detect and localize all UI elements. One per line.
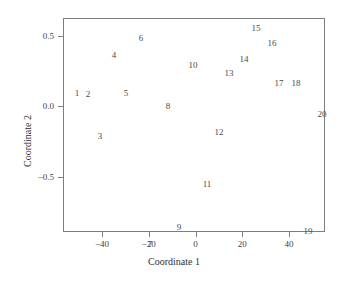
x-axis-tick: [149, 232, 150, 237]
data-point-label: 3: [98, 131, 103, 140]
plot-data-area: 1234567891011121314151617182019: [63, 18, 325, 232]
data-point-label: 14: [239, 54, 248, 63]
x-axis-tick-label: 20: [238, 239, 247, 249]
x-axis-tick: [242, 232, 243, 237]
x-axis-tick: [102, 232, 103, 237]
data-point-label: 2: [86, 90, 91, 99]
x-axis-label: Coordinate 1: [0, 256, 348, 267]
y-axis-label: Coordinate 2: [22, 115, 33, 167]
x-axis-tick-label: 40: [285, 239, 294, 249]
scatter-plot-figure: 1234567891011121314151617182019 −40−2002…: [0, 0, 348, 282]
x-axis-tick: [289, 232, 290, 237]
y-axis-tick: [58, 36, 63, 37]
data-point-label: 15: [252, 23, 261, 32]
data-point-label: 13: [224, 69, 233, 78]
data-point-label: 10: [188, 61, 197, 70]
y-axis-tick: [58, 106, 63, 107]
x-axis-tick-label: 0: [193, 239, 198, 249]
data-point-label: 18: [292, 78, 301, 87]
y-axis-tick-label: −0.5: [38, 172, 54, 182]
data-point-label: 5: [124, 89, 129, 98]
data-point-label: 20: [317, 109, 326, 118]
y-axis-tick-label: 0.5: [43, 31, 54, 41]
data-point-label: 8: [166, 102, 171, 111]
y-axis-tick: [58, 177, 63, 178]
data-point-label: 4: [112, 50, 117, 59]
data-point-label: 16: [267, 38, 276, 47]
data-point-label: 19: [303, 226, 312, 235]
x-axis-tick: [196, 232, 197, 237]
x-axis-tick-label: −40: [95, 239, 109, 249]
data-point-label: 11: [203, 180, 212, 189]
data-point-label: 17: [274, 78, 283, 87]
y-axis-tick-label: 0.0: [43, 101, 54, 111]
data-point-label: 1: [75, 89, 80, 98]
data-point-label: 9: [177, 223, 182, 232]
data-point-label: 12: [215, 128, 224, 137]
x-axis-tick-label: −20: [142, 239, 156, 249]
data-point-label: 6: [139, 34, 144, 43]
